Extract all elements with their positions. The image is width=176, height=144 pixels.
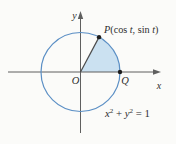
point-p-label-close: )	[155, 24, 158, 36]
origin-label: O	[72, 75, 80, 86]
point-p-label: P(cos t, sin t)	[103, 24, 158, 36]
unit-circle-figure: y x O Q P(cos t, sin t) x2 + y2 = 1	[0, 0, 176, 144]
x-axis-label: x	[156, 80, 162, 91]
figure-canvas: y x O Q P(cos t, sin t) x2 + y2 = 1	[0, 0, 176, 144]
point-p-dot	[97, 35, 101, 39]
point-p-label-p: P	[103, 24, 110, 35]
point-p-label-sin: , sin	[133, 24, 153, 35]
point-q-label: Q	[121, 75, 129, 86]
point-p-label-open-cos: (cos	[110, 24, 130, 36]
y-axis-label: y	[71, 10, 77, 21]
equation-equals-one: = 1	[133, 107, 150, 119]
equation-plus: +	[113, 107, 125, 119]
